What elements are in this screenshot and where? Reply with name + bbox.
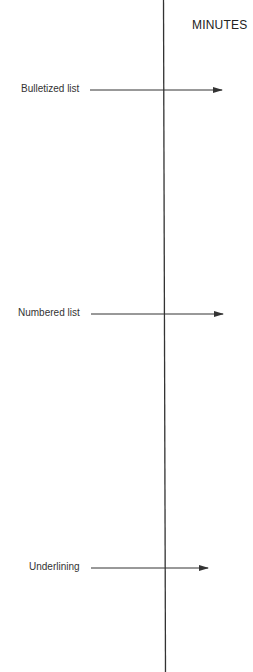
label-underlining: Underlining bbox=[29, 561, 80, 572]
vertical-axis-line bbox=[164, 0, 166, 672]
label-bulletized-list: Bulletized list bbox=[21, 83, 79, 94]
label-numbered-list: Numbered list bbox=[18, 307, 80, 318]
